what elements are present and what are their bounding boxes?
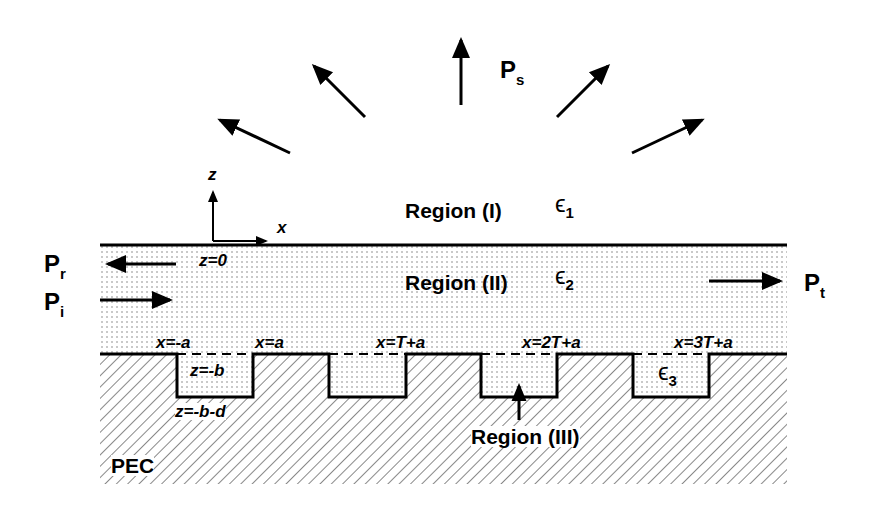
epsilon-3: ϵ3 — [658, 360, 677, 384]
boundary-z-neg-b: z=-b — [190, 362, 224, 379]
boundary-x-3T-a: x=3T+a — [674, 334, 733, 351]
boundary-x-2T-a: x=2T+a — [522, 334, 581, 351]
coordinate-axes — [213, 192, 266, 241]
incident-power-label: Pi — [44, 290, 64, 314]
scattered-power-label: Ps — [500, 58, 524, 82]
transmitted-power-label: Pt — [804, 271, 825, 295]
z-axis-label: z — [208, 166, 217, 183]
region-2-label: Region (II) — [405, 272, 508, 293]
x-axis-label: x — [277, 219, 286, 236]
pec-label: PEC — [111, 455, 154, 476]
origin-label: z=0 — [199, 252, 227, 269]
boundary-x-neg-a: x=-a — [156, 334, 191, 351]
region-1-label: Region (I) — [405, 200, 502, 221]
reflected-power-label: Pr — [44, 252, 66, 276]
scattered-arrows — [220, 40, 702, 153]
diagram-graphics — [0, 0, 871, 514]
region-3-label: Region (III) — [471, 426, 580, 447]
epsilon-1: ϵ1 — [555, 192, 574, 216]
boundary-z-neg-b-d: z=-b-d — [175, 403, 226, 420]
grating-diagram: Ps Pr Pi Pt z x z=0 Region (I) ϵ1 Region… — [0, 0, 871, 514]
boundary-x-T-a: x=T+a — [376, 334, 425, 351]
epsilon-2: ϵ2 — [555, 264, 574, 288]
boundary-x-a: x=a — [255, 334, 284, 351]
